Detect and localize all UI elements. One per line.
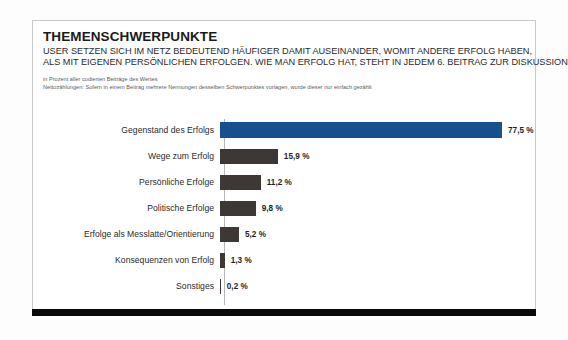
card-header: THEMENSCHWERPUNKTE USER SETZEN SICH IM N…	[43, 29, 525, 92]
chart-category-label: Politische Erfolge	[33, 203, 219, 213]
chart-bar-area: 9,8 %	[219, 195, 535, 221]
chart-bar-area: 1,3 %	[219, 247, 535, 273]
chart-rows: Gegenstand des Erfolgs77,5 %Wege zum Erf…	[33, 117, 535, 299]
chart-bar	[220, 253, 225, 268]
screenshot-root: THEMENSCHWERPUNKTE USER SETZEN SICH IM N…	[0, 0, 568, 340]
subtitle-line-1: USER SETZEN SICH IM NETZ BEDEUTEND HÄUFI…	[43, 46, 525, 57]
chart-row: Politische Erfolge9,8 %	[33, 195, 535, 221]
chart-category-label: Wege zum Erfolg	[33, 151, 219, 161]
chart-row: Sonstiges0,2 %	[33, 273, 535, 299]
chart-row: Erfolge als Messlatte/Orientierung5,2 %	[33, 221, 535, 247]
chart-bar	[220, 279, 221, 294]
chart-value-label: 0,2 %	[227, 282, 248, 291]
chart-bar	[220, 122, 502, 138]
note-block: in Prozent aller codierten Beiträge des …	[43, 75, 525, 92]
chart-bar	[220, 227, 239, 242]
infographic-card: THEMENSCHWERPUNKTE USER SETZEN SICH IM N…	[32, 20, 536, 316]
note-line-1: in Prozent aller codierten Beiträge des …	[43, 75, 525, 83]
footer-accent-bar	[32, 309, 536, 316]
chart-category-label: Erfolge als Messlatte/Orientierung	[33, 229, 219, 239]
chart-row: Wege zum Erfolg15,9 %	[33, 143, 535, 169]
subtitle-line-2: ALS MIT EIGENEN PERSÖNLICHEN ERFOLGEN. W…	[43, 57, 525, 68]
chart-value-label: 15,9 %	[284, 152, 310, 161]
chart-bar	[220, 175, 261, 190]
chart-category-label: Gegenstand des Erfolgs	[33, 125, 219, 135]
chart-bar-area: 0,2 %	[219, 273, 535, 299]
chart-row: Konsequenzen von Erfolg1,3 %	[33, 247, 535, 273]
bar-chart: Gegenstand des Erfolgs77,5 %Wege zum Erf…	[33, 117, 535, 313]
chart-category-label: Sonstiges	[33, 281, 219, 291]
chart-value-label: 1,3 %	[231, 256, 252, 265]
chart-row: Persönliche Erfolge11,2 %	[33, 169, 535, 195]
chart-bar-area: 77,5 %	[219, 117, 535, 143]
chart-bar-area: 11,2 %	[219, 169, 535, 195]
chart-value-label: 11,2 %	[267, 178, 292, 187]
chart-value-label: 77,5 %	[508, 126, 534, 135]
chart-bar	[220, 149, 278, 164]
chart-category-label: Persönliche Erfolge	[33, 177, 219, 187]
chart-row: Gegenstand des Erfolgs77,5 %	[33, 117, 535, 143]
chart-value-label: 9,8 %	[262, 204, 283, 213]
chart-category-label: Konsequenzen von Erfolg	[33, 255, 219, 265]
chart-bar-area: 5,2 %	[219, 221, 535, 247]
page-title: THEMENSCHWERPUNKTE	[43, 29, 525, 44]
chart-bar	[220, 201, 256, 216]
chart-value-label: 5,2 %	[245, 230, 266, 239]
note-line-2: Nettozählungen: Sofern in einem Beitrag …	[43, 83, 525, 91]
chart-bar-area: 15,9 %	[219, 143, 535, 169]
